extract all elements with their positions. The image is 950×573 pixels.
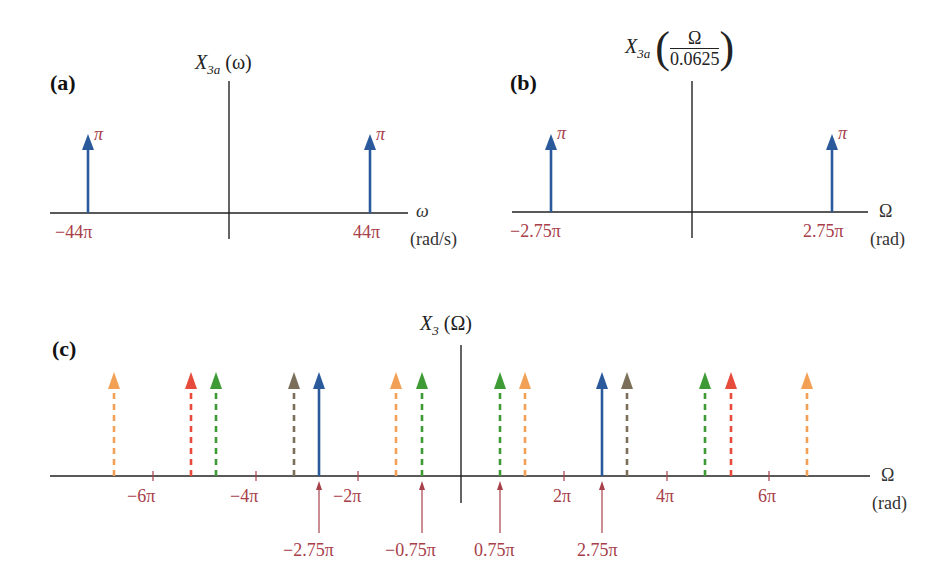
panel-a-axis-var: ω [416, 202, 429, 220]
panel-c-title: X3 (Ω) [420, 313, 472, 337]
panel-b-axis-var: Ω [879, 202, 892, 220]
panel-b-title-num: Ω [670, 29, 720, 49]
panel-c-axis-unit: (rad) [872, 494, 907, 512]
panel-b-height-label-neg: π [557, 124, 566, 142]
pointer-label-neg-2.75pi: −2.75π [283, 541, 334, 559]
panel-b-axis-unit: (rad) [870, 230, 905, 248]
tick-label-pos-4pi: 4π [656, 487, 674, 505]
tick-label-neg-4pi: −4π [230, 487, 258, 505]
tick-label-neg-2pi: −2π [333, 487, 361, 505]
panel-b-tag: (b) [510, 72, 537, 94]
tick-label-neg-6pi: −6π [127, 487, 155, 505]
panel-b-title-main: X [625, 35, 637, 57]
panel-a-axis-unit: (rad/s) [410, 230, 457, 248]
panel-a-title-sub: 3a [207, 62, 220, 77]
panel-b-title-den: 0.0625 [670, 49, 720, 68]
panel-a-tag: (a) [50, 72, 76, 94]
panel-b-title: X3a (Ω0.0625) [625, 26, 734, 70]
panel-b-plot [512, 81, 868, 238]
panel-a-pos-label-pos: 44π [353, 223, 380, 241]
panel-a-plot [50, 81, 408, 239]
pointer-label-neg-0.75pi: −0.75π [385, 541, 436, 559]
panel-a-impulse-neg [82, 134, 94, 213]
panel-a-impulse-pos [364, 134, 376, 213]
panel-c-title-arg: (Ω) [444, 312, 472, 334]
pointer-label-pos-2.75pi: 2.75π [577, 541, 618, 559]
panel-c-title-sub: 3 [432, 323, 439, 338]
panel-b-impulse-neg [545, 134, 557, 212]
panel-b-pos-label-neg: −2.75π [510, 222, 561, 240]
panel-a-title-arg: (ω) [225, 51, 251, 73]
pointer-label-pos-0.75pi: 0.75π [474, 541, 515, 559]
panel-b-title-fraction: Ω0.0625 [670, 29, 720, 68]
panel-b-height-label-pos: π [838, 124, 847, 142]
panel-b-title-sub: 3a [637, 46, 650, 61]
panel-a-height-label-neg: π [94, 125, 103, 143]
panel-b-title-lparen: ( [655, 23, 670, 72]
panel-c-tag: (c) [52, 338, 76, 360]
panel-b-pos-label-pos: 2.75π [803, 222, 844, 240]
panel-b-title-rparen: ) [719, 23, 734, 72]
panel-b-impulse-pos [826, 134, 838, 212]
panel-c-plot [50, 345, 870, 533]
panel-c-axis-var: Ω [881, 466, 894, 484]
panel-a-pos-label-neg: −44π [55, 223, 92, 241]
tick-label-pos-2pi: 2π [553, 487, 571, 505]
tick-label-pos-6pi: 6π [758, 487, 776, 505]
panel-a-title-main: X [195, 51, 207, 73]
panel-a-title: X3a (ω) [195, 52, 252, 76]
panel-c-title-main: X [420, 312, 432, 334]
panel-a-height-label-pos: π [376, 125, 385, 143]
